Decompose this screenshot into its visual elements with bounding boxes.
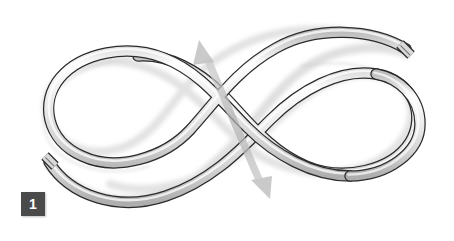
rope-end-left bbox=[45, 156, 55, 166]
step-number-badge: 1 bbox=[21, 192, 45, 216]
step-number-badge-label: 1 bbox=[29, 197, 37, 211]
rope-diagram-svg bbox=[0, 0, 454, 241]
direction-arrow-head-bottom bbox=[251, 176, 272, 199]
direction-arrow-head-top bbox=[193, 40, 214, 65]
rope-illustration-figure: 1 bbox=[0, 0, 454, 241]
